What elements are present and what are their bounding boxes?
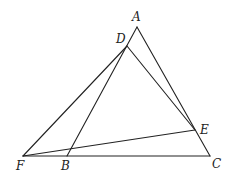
- label-e: E: [199, 123, 209, 137]
- label-c: C: [212, 157, 221, 171]
- label-a: A: [131, 10, 141, 24]
- segment-df: [23, 46, 127, 156]
- label-b: B: [60, 159, 70, 173]
- segments-group: [23, 27, 210, 156]
- triangle-diagram: A D E F B C: [0, 0, 234, 180]
- label-d: D: [115, 32, 126, 46]
- label-f: F: [15, 159, 25, 173]
- segment-fe: [23, 130, 195, 156]
- segment-de: [127, 46, 195, 130]
- labels-group: A D E F B C: [15, 10, 221, 173]
- geometry-figure: A D E F B C: [0, 0, 234, 180]
